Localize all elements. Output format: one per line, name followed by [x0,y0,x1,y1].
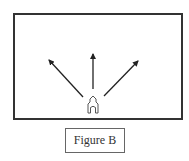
house-icon [88,96,98,113]
caption-text: Figure B [74,133,116,148]
arrow-up-left [49,60,83,97]
figure-caption: Figure B [65,128,125,153]
arrow-up-right [104,61,138,96]
